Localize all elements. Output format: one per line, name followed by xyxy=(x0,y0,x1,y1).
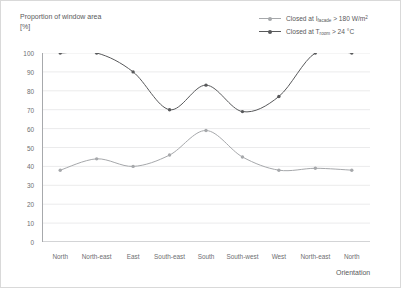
data-point xyxy=(131,70,134,73)
data-point xyxy=(350,168,353,171)
y-axis-title-line1: Proportion of window area xyxy=(20,12,101,22)
y-tick-label: 100 xyxy=(23,50,34,57)
plot-area xyxy=(42,53,370,242)
data-point xyxy=(59,168,62,171)
data-point xyxy=(168,108,171,111)
data-point xyxy=(131,165,134,168)
y-tick-label: 0 xyxy=(30,239,34,246)
chart-legend: Closed at Ifacade > 180 W/m2Closed at Tr… xyxy=(259,13,399,39)
y-tick-label: 20 xyxy=(27,201,34,208)
data-point xyxy=(277,95,280,98)
y-axis-title-line2: [%] xyxy=(20,22,101,32)
legend-label: Closed at Troom > 24 °C xyxy=(286,28,354,35)
x-tick-label: West xyxy=(272,253,286,260)
y-axis-title: Proportion of window area [%] xyxy=(20,12,101,31)
data-point xyxy=(95,157,98,160)
x-axis-title: Orientation xyxy=(336,268,370,278)
x-tick-label: South-west xyxy=(226,253,258,260)
data-point xyxy=(204,129,207,132)
y-tick-label: 30 xyxy=(27,182,34,189)
series-line xyxy=(60,53,352,112)
x-tick-label: North xyxy=(344,253,360,260)
series-1 xyxy=(59,53,354,113)
data-point xyxy=(204,83,207,86)
y-tick-label: 80 xyxy=(27,87,34,94)
legend-swatch xyxy=(259,27,281,36)
data-point xyxy=(59,53,62,55)
y-tick-label: 10 xyxy=(27,220,34,227)
x-tick-label: North-east xyxy=(300,253,330,260)
legend-label: Closed at Ifacade > 180 W/m2 xyxy=(286,15,368,22)
x-axis-tick-labels: NorthNorth-eastEastSouth-eastSouthSouth-… xyxy=(42,253,370,265)
x-tick-label: South-east xyxy=(154,253,185,260)
data-point xyxy=(314,167,317,170)
legend-item[interactable]: Closed at Ifacade > 180 W/m2 xyxy=(259,13,399,24)
y-tick-label: 60 xyxy=(27,125,34,132)
x-tick-label: South xyxy=(198,253,215,260)
series-line xyxy=(60,130,352,170)
legend-marker-icon xyxy=(268,17,272,21)
data-point xyxy=(168,153,171,156)
chart-figure: Proportion of window area [%] Closed at … xyxy=(0,0,401,288)
x-tick-label: North xyxy=(52,253,68,260)
data-point xyxy=(241,155,244,158)
legend-marker-icon xyxy=(268,30,272,34)
plot-svg xyxy=(42,53,370,242)
data-point xyxy=(350,53,353,55)
x-tick-label: North-east xyxy=(82,253,112,260)
data-point xyxy=(95,53,98,55)
series-0 xyxy=(59,129,354,172)
data-point xyxy=(241,110,244,113)
data-point xyxy=(314,53,317,55)
y-tick-label: 50 xyxy=(27,144,34,151)
y-tick-label: 40 xyxy=(27,163,34,170)
y-tick-label: 70 xyxy=(27,106,34,113)
y-axis-tick-labels: 0102030405060708090100 xyxy=(17,53,34,242)
x-tick-label: East xyxy=(127,253,140,260)
legend-item[interactable]: Closed at Troom > 24 °C xyxy=(259,26,399,37)
gridlines xyxy=(42,53,370,223)
data-point xyxy=(277,168,280,171)
series-layer xyxy=(59,53,354,172)
legend-swatch xyxy=(259,14,281,23)
y-tick-label: 90 xyxy=(27,68,34,75)
